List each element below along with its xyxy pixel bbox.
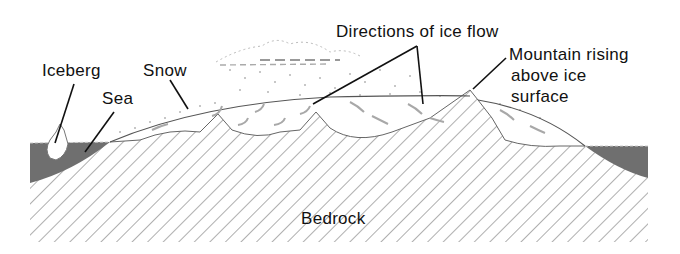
label-sea: Sea [102, 89, 133, 109]
label-ice-flow: Directions of ice flow [336, 22, 499, 42]
label-mountain-line1: Mountain rising [509, 45, 629, 65]
label-snow: Snow [143, 61, 187, 81]
label-iceberg: Iceberg [42, 61, 101, 81]
label-mountain-line2: above ice [511, 66, 586, 86]
leader-ice-flow-left [313, 46, 417, 104]
label-bedrock: Bedrock [301, 209, 365, 229]
leader-snow [170, 80, 188, 109]
leader-mountain [473, 58, 506, 89]
label-mountain-line3: surface [511, 87, 569, 107]
